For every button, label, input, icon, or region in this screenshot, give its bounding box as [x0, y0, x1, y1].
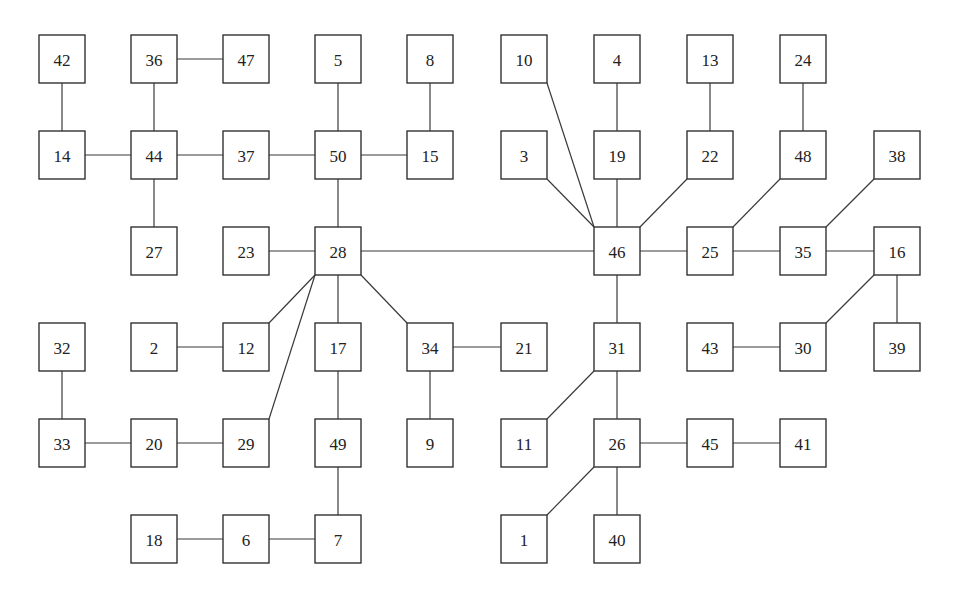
node-label: 35 — [795, 243, 812, 262]
edge-3-46 — [547, 179, 594, 227]
node-34: 34 — [407, 323, 453, 371]
node-label: 37 — [238, 147, 256, 166]
node-label: 31 — [609, 339, 626, 358]
node-36: 36 — [131, 35, 177, 83]
node-label: 27 — [146, 243, 164, 262]
node-label: 26 — [609, 435, 626, 454]
node-29: 29 — [223, 419, 269, 467]
node-label: 19 — [609, 147, 626, 166]
node-33: 33 — [39, 419, 85, 467]
node-19: 19 — [594, 131, 640, 179]
node-40: 40 — [594, 515, 640, 563]
node-22: 22 — [687, 131, 733, 179]
node-48: 48 — [780, 131, 826, 179]
node-7: 7 — [315, 515, 361, 563]
node-28: 28 — [315, 227, 361, 275]
node-label: 39 — [889, 339, 906, 358]
network-diagram: 4236475810413241444375015319224838272328… — [0, 0, 957, 598]
node-label: 9 — [426, 435, 435, 454]
node-18: 18 — [131, 515, 177, 563]
node-6: 6 — [223, 515, 269, 563]
node-label: 36 — [146, 51, 163, 70]
node-15: 15 — [407, 131, 453, 179]
node-13: 13 — [687, 35, 733, 83]
node-label: 11 — [516, 435, 532, 454]
node-label: 6 — [242, 531, 251, 550]
node-label: 47 — [238, 51, 256, 70]
edge-31-11 — [547, 371, 594, 419]
node-label: 23 — [238, 243, 255, 262]
node-35: 35 — [780, 227, 826, 275]
node-17: 17 — [315, 323, 361, 371]
node-label: 22 — [702, 147, 719, 166]
edge-28-29 — [269, 275, 315, 419]
node-9: 9 — [407, 419, 453, 467]
node-label: 8 — [426, 51, 435, 70]
node-41: 41 — [780, 419, 826, 467]
node-label: 7 — [334, 531, 343, 550]
edge-10-46 — [547, 83, 594, 227]
node-label: 28 — [330, 243, 347, 262]
node-50: 50 — [315, 131, 361, 179]
node-label: 17 — [330, 339, 348, 358]
node-46: 46 — [594, 227, 640, 275]
node-label: 20 — [146, 435, 163, 454]
node-label: 13 — [702, 51, 719, 70]
node-20: 20 — [131, 419, 177, 467]
node-27: 27 — [131, 227, 177, 275]
node-label: 12 — [238, 339, 255, 358]
node-label: 29 — [238, 435, 255, 454]
node-31: 31 — [594, 323, 640, 371]
node-label: 42 — [54, 51, 71, 70]
node-30: 30 — [780, 323, 826, 371]
node-label: 2 — [150, 339, 159, 358]
node-42: 42 — [39, 35, 85, 83]
edge-16-30 — [826, 275, 874, 323]
node-label: 3 — [520, 147, 529, 166]
node-2: 2 — [131, 323, 177, 371]
node-label: 24 — [795, 51, 813, 70]
node-37: 37 — [223, 131, 269, 179]
node-label: 38 — [889, 147, 906, 166]
node-label: 25 — [702, 243, 719, 262]
node-26: 26 — [594, 419, 640, 467]
node-12: 12 — [223, 323, 269, 371]
node-14: 14 — [39, 131, 85, 179]
node-label: 44 — [146, 147, 164, 166]
node-1: 1 — [501, 515, 547, 563]
node-label: 50 — [330, 147, 347, 166]
node-label: 15 — [422, 147, 439, 166]
node-label: 5 — [334, 51, 343, 70]
node-32: 32 — [39, 323, 85, 371]
node-8: 8 — [407, 35, 453, 83]
node-label: 14 — [54, 147, 72, 166]
node-label: 16 — [889, 243, 906, 262]
node-label: 33 — [54, 435, 71, 454]
node-5: 5 — [315, 35, 361, 83]
node-43: 43 — [687, 323, 733, 371]
node-3: 3 — [501, 131, 547, 179]
node-label: 43 — [702, 339, 719, 358]
node-label: 32 — [54, 339, 71, 358]
node-label: 21 — [516, 339, 533, 358]
node-25: 25 — [687, 227, 733, 275]
edge-22-46 — [640, 179, 687, 227]
edge-28-12 — [269, 275, 315, 323]
node-label: 49 — [330, 435, 347, 454]
node-label: 41 — [795, 435, 812, 454]
node-4: 4 — [594, 35, 640, 83]
node-label: 18 — [146, 531, 163, 550]
node-10: 10 — [501, 35, 547, 83]
node-label: 45 — [702, 435, 719, 454]
node-45: 45 — [687, 419, 733, 467]
node-49: 49 — [315, 419, 361, 467]
node-label: 4 — [613, 51, 622, 70]
node-38: 38 — [874, 131, 920, 179]
nodes-layer: 4236475810413241444375015319224838272328… — [39, 35, 920, 563]
node-label: 10 — [516, 51, 533, 70]
node-21: 21 — [501, 323, 547, 371]
node-24: 24 — [780, 35, 826, 83]
edge-48-25 — [733, 179, 780, 227]
node-label: 34 — [422, 339, 440, 358]
node-label: 1 — [520, 531, 529, 550]
